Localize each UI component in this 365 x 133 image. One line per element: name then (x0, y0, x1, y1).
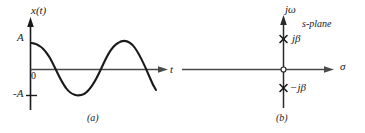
tick-label-negative-A: -A (13, 88, 23, 99)
y-axis-label-b: jω (285, 4, 296, 15)
sinusoid-curve (31, 41, 156, 95)
panel-caption-b: (b) (276, 113, 288, 123)
real-axis (182, 66, 334, 73)
panel-b-s-plane: jω s-plane jβ −jβ σ (b) (182, 0, 365, 133)
figure-container: x(t) A -A 0 t (a) (0, 0, 365, 133)
panel-caption-a: (a) (87, 113, 99, 123)
panel-a-time-domain: x(t) A -A 0 t (a) (0, 0, 182, 133)
origin-marker-o (281, 67, 286, 72)
tick-label-A: A (17, 32, 24, 43)
pole-label-lower: −jβ (290, 82, 306, 93)
x-axis-label-b: σ (340, 61, 345, 72)
panel-b-plot (182, 0, 365, 133)
s-plane-label: s-plane (302, 19, 331, 29)
y-axis-label-a: x(t) (31, 5, 46, 16)
imaginary-axis (280, 15, 287, 108)
x-axis-label-a: t (170, 64, 173, 75)
pole-label-upper: jβ (292, 33, 301, 44)
origin-label-a: 0 (31, 71, 36, 81)
